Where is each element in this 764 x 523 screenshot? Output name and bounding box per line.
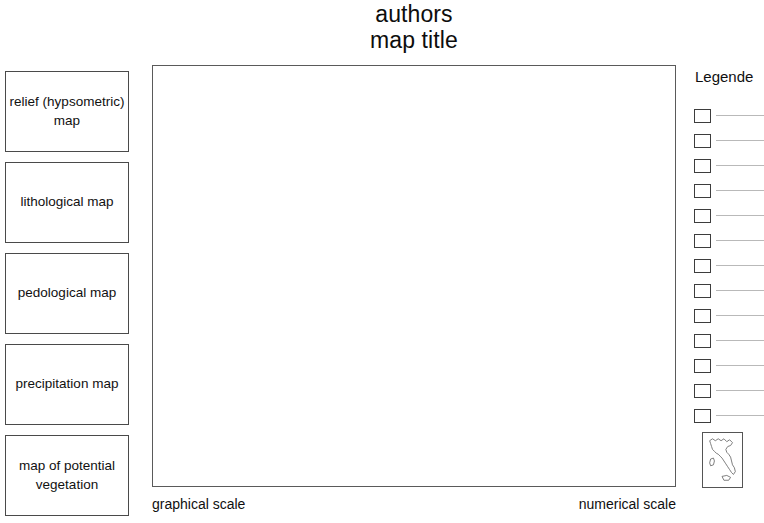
legend-entry[interactable] xyxy=(694,153,764,178)
legend-entry-label xyxy=(716,390,764,391)
legend-entry-label xyxy=(716,140,764,141)
legend-swatch-icon xyxy=(694,409,711,423)
legend-swatch-icon xyxy=(694,284,711,298)
legend-entry[interactable] xyxy=(694,353,764,378)
legend-entry-label xyxy=(716,415,764,416)
legend-panel: Legende xyxy=(694,68,764,428)
legend-entry[interactable] xyxy=(694,203,764,228)
legend-entry-label xyxy=(716,365,764,366)
sidebar-item-label: precipitation map xyxy=(13,375,122,393)
legend-swatch-icon xyxy=(694,384,711,398)
legend-entry[interactable] xyxy=(694,128,764,153)
legend-entry-label xyxy=(716,215,764,216)
sidebar-item-precipitation-map[interactable]: precipitation map xyxy=(5,344,129,425)
legend-entry-label xyxy=(716,190,764,191)
legend-entry[interactable] xyxy=(694,278,764,303)
legend-entry[interactable] xyxy=(694,303,764,328)
numerical-scale-label: numerical scale xyxy=(579,496,676,512)
title-block: authors map title xyxy=(152,2,676,54)
legend-swatch-icon xyxy=(694,309,711,323)
legend-entry-label xyxy=(716,240,764,241)
legend-entry[interactable] xyxy=(694,228,764,253)
legend-entry-label xyxy=(716,165,764,166)
main-map-area[interactable] xyxy=(152,65,676,487)
legend-entry[interactable] xyxy=(694,378,764,403)
authors-line: authors xyxy=(152,2,676,28)
legend-swatch-icon xyxy=(694,209,711,223)
legend-entry[interactable] xyxy=(694,253,764,278)
sidebar-item-label: relief (hypsometric) map xyxy=(6,93,128,129)
sidebar-item-pedological-map[interactable]: pedological map xyxy=(5,253,129,334)
page-title: map title xyxy=(152,28,676,54)
legend-swatch-icon xyxy=(694,334,711,348)
sidebar-item-label: lithological map xyxy=(17,193,116,211)
legend-entry-label xyxy=(716,290,764,291)
sidebar-item-label: map of potential vegetation xyxy=(6,457,128,493)
scale-row: graphical scale numerical scale xyxy=(152,496,676,512)
legend-swatch-icon xyxy=(694,109,711,123)
sidebar-item-label: pedological map xyxy=(15,284,119,302)
legend-entry-list xyxy=(694,103,764,428)
legend-swatch-icon xyxy=(694,234,711,248)
legend-heading: Legende xyxy=(695,68,764,85)
thematic-map-list: relief (hypsometric) map lithological ma… xyxy=(5,71,129,523)
legend-entry-label xyxy=(716,265,764,266)
italy-outline-icon xyxy=(703,433,742,487)
sidebar-item-potential-vegetation-map[interactable]: map of potential vegetation xyxy=(5,435,129,516)
legend-entry-label xyxy=(716,315,764,316)
legend-entry[interactable] xyxy=(694,403,764,428)
sidebar-item-lithological-map[interactable]: lithological map xyxy=(5,162,129,243)
legend-entry[interactable] xyxy=(694,103,764,128)
legend-entry-label xyxy=(716,115,764,116)
sidebar-item-relief-map[interactable]: relief (hypsometric) map xyxy=(5,71,129,152)
legend-swatch-icon xyxy=(694,159,711,173)
legend-swatch-icon xyxy=(694,184,711,198)
legend-swatch-icon xyxy=(694,134,711,148)
legend-swatch-icon xyxy=(694,259,711,273)
graphical-scale-label: graphical scale xyxy=(152,496,245,512)
legend-entry[interactable] xyxy=(694,328,764,353)
inset-locator-map[interactable] xyxy=(702,432,743,488)
legend-entry[interactable] xyxy=(694,178,764,203)
map-layout-template: authors map title relief (hypsometric) m… xyxy=(0,0,764,523)
legend-swatch-icon xyxy=(694,359,711,373)
legend-entry-label xyxy=(716,340,764,341)
